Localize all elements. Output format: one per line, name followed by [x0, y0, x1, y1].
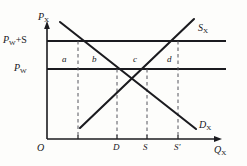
- supply-demand-diagram: PX QX O PW+S PW SX DX a b c d D S S': [0, 0, 247, 166]
- origin-label: O: [37, 143, 44, 153]
- price-label-world: PW: [14, 63, 27, 75]
- x-axis-label-subscript: X: [221, 149, 226, 157]
- region-label-d: d: [167, 55, 172, 64]
- x-axis-arrowhead: [214, 136, 222, 142]
- demand-curve: [60, 22, 196, 129]
- y-axis-label-subscript: X: [44, 16, 49, 24]
- price-label-world-plus-subsidy: PW+S: [3, 35, 27, 47]
- tick-label-S-prime: S': [174, 143, 180, 152]
- x-axis: [47, 136, 222, 142]
- price-label-subscript-2: W: [20, 67, 27, 75]
- supply-curve: [80, 19, 194, 128]
- supply-curve-label: SX: [198, 23, 208, 35]
- y-axis-label: PX: [38, 12, 49, 24]
- y-axis: [44, 21, 50, 139]
- demand-curve-label-subscript: X: [206, 124, 211, 132]
- x-axis-label: QX: [214, 145, 226, 157]
- region-label-b: b: [92, 55, 97, 64]
- tick-label-D: D: [113, 143, 120, 152]
- demand-curve-label: DX: [199, 120, 211, 132]
- region-label-a: a: [62, 55, 67, 64]
- price-label-subscript-1: W: [9, 39, 16, 47]
- region-label-c: c: [133, 55, 137, 64]
- price-label-suffix-1: +S: [16, 34, 27, 45]
- tick-label-S: S: [143, 143, 148, 152]
- supply-curve-label-subscript: X: [203, 27, 208, 35]
